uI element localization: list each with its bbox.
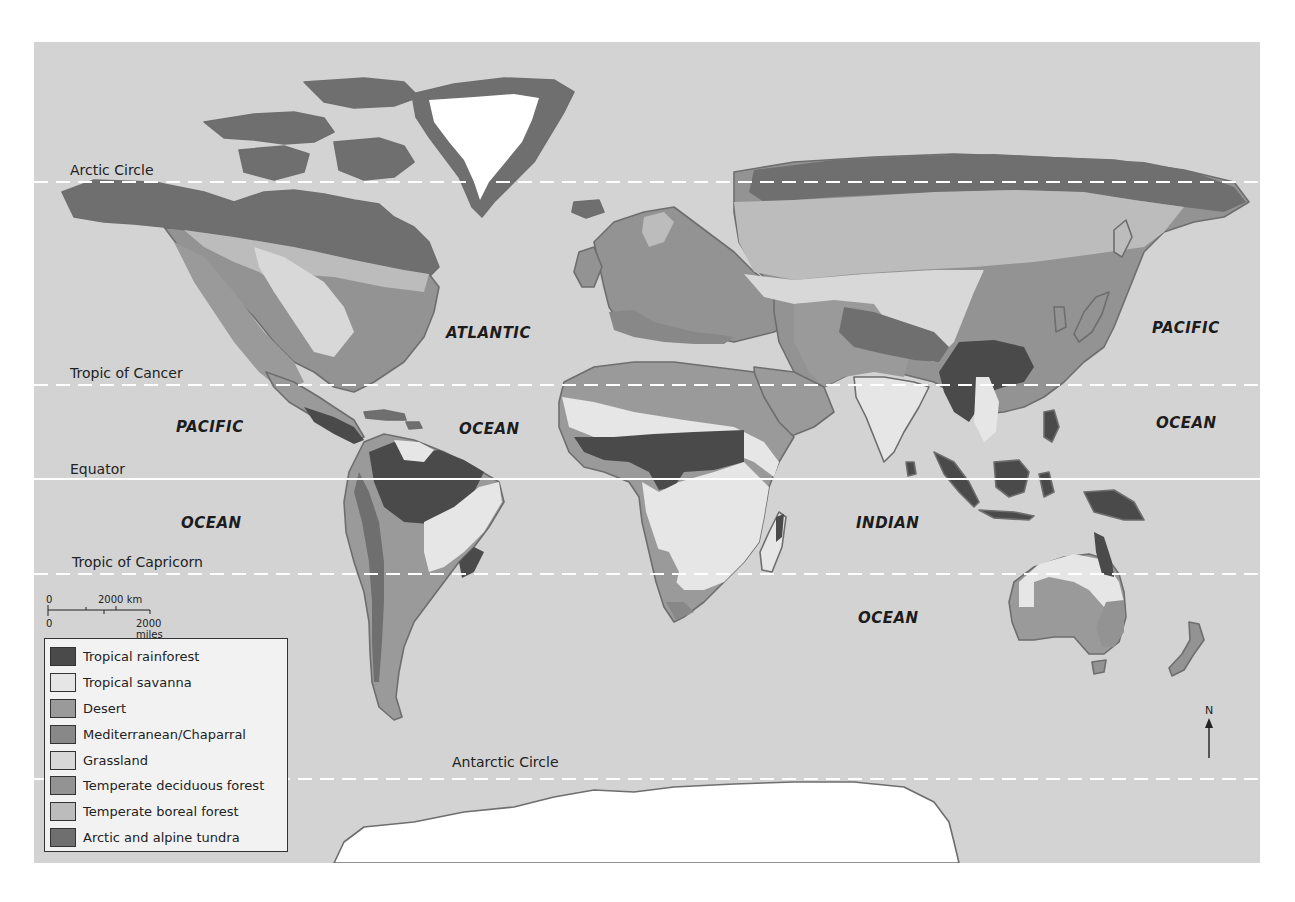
biome-map: Arctic Circle Tropic of Cancer Equator T… [34,42,1260,863]
legend-item-tropical-savanna: Tropical savanna [50,670,287,696]
pacific-west-label: PACIFIC [176,418,244,436]
legend-swatch [50,673,76,692]
legend-label: Desert [83,701,126,716]
legend-label: Grassland [83,753,148,768]
pacific-west-ocean-label: OCEAN [181,514,242,532]
scale-mi-zero: 0 [46,618,52,629]
atlantic-ocean-label: OCEAN [459,420,520,438]
tropic-of-cancer-label: Tropic of Cancer [70,365,183,381]
north-arrow: N [1202,704,1222,760]
legend-swatch [50,751,76,770]
legend-item-grassland: Grassland [50,747,287,773]
legend-item-temperate-deciduous: Temperate deciduous forest [50,773,287,799]
legend-item-arctic-tundra: Arctic and alpine tundra [50,825,287,851]
legend-label: Tropical savanna [83,675,192,690]
indian-label: INDIAN [856,514,919,532]
new-zealand [1169,622,1204,676]
scale-bar-graphic [46,604,156,618]
tropic-of-capricorn-label: Tropic of Capricorn [72,554,203,570]
antarctica [334,782,959,863]
legend-swatch [50,802,76,821]
atlantic-label: ATLANTIC [446,324,531,342]
scale-mi-label: 2000 miles [136,618,163,640]
korea [1054,307,1066,332]
north-arrow-icon [1202,716,1222,772]
arctic-circle-label: Arctic Circle [70,162,154,178]
antarctic-circle-label: Antarctic Circle [452,754,559,770]
equator-label: Equator [70,461,125,477]
legend-item-temperate-boreal: Temperate boreal forest [50,799,287,825]
legend-swatch [50,647,76,666]
java [979,510,1034,520]
indian-ocean-label: OCEAN [858,609,919,627]
legend-label: Temperate deciduous forest [83,778,264,793]
arctic-islands [204,112,334,144]
pacific-east-ocean-label: OCEAN [1156,414,1217,432]
legend-label: Mediterranean/Chaparral [83,727,246,742]
new-guinea [1084,490,1144,520]
india [854,377,929,462]
legend-swatch [50,776,76,795]
legend-item-desert: Desert [50,696,287,722]
legend-label: Temperate boreal forest [83,804,239,819]
pacific-east-label: PACIFIC [1152,319,1220,337]
sulawesi [1039,472,1054,497]
legend-label: Arctic and alpine tundra [83,830,240,845]
legend-swatch [50,699,76,718]
legend-item-tropical-rainforest: Tropical rainforest [50,644,287,670]
scale-bar: 0 2000 km 0 2000 miles [46,594,156,634]
legend-item-mediterranean: Mediterranean/Chaparral [50,721,287,747]
legend-swatch [50,828,76,847]
legend-swatch [50,725,76,744]
tasmania [1092,660,1106,674]
legend: Tropical rainforest Tropical savanna Des… [44,638,288,852]
legend-label: Tropical rainforest [83,649,199,664]
